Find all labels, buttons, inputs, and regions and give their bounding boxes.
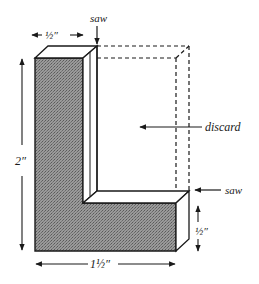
discard-label: discard bbox=[205, 120, 242, 134]
width-top-label: ½″ bbox=[45, 29, 58, 41]
discard-outline bbox=[83, 46, 189, 203]
saw-label-right: saw bbox=[225, 184, 243, 196]
front-face bbox=[35, 58, 176, 251]
height-left-label: 2″ bbox=[15, 154, 27, 168]
height-right-label: ½″ bbox=[195, 225, 208, 237]
saw-label-top: saw bbox=[90, 12, 108, 24]
width-bottom-label: 1½″ bbox=[90, 257, 111, 271]
top-face-horizontal-leg bbox=[83, 191, 189, 203]
l-block-diagram: saw saw discard ½″ 2″ 1½″ ½″ bbox=[0, 0, 259, 284]
